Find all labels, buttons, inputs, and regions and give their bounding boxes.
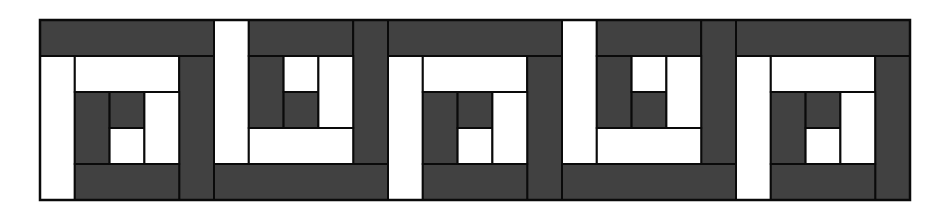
quilt-block-3 bbox=[388, 20, 562, 200]
inner-bottom-log bbox=[597, 128, 701, 164]
inner-left-log bbox=[249, 56, 284, 128]
inner-bottom-log bbox=[249, 128, 353, 164]
center-light-square bbox=[806, 128, 841, 164]
inner-right-log bbox=[666, 56, 701, 128]
top-log bbox=[736, 20, 910, 56]
center-dark-square bbox=[110, 92, 145, 128]
bottom-log bbox=[423, 164, 527, 200]
inner-right-log bbox=[318, 56, 353, 128]
right-log bbox=[179, 56, 214, 200]
right-log bbox=[701, 20, 736, 164]
left-log bbox=[388, 56, 423, 200]
inner-left-log bbox=[771, 92, 806, 164]
bottom-log bbox=[75, 164, 179, 200]
log-cabin-quilt-strip bbox=[0, 0, 942, 209]
bottom-log bbox=[214, 164, 388, 200]
inner-top-log bbox=[423, 56, 527, 92]
left-log bbox=[40, 56, 75, 200]
right-log bbox=[527, 56, 562, 200]
inner-right-log bbox=[840, 92, 875, 164]
left-log bbox=[214, 20, 249, 164]
top-log bbox=[40, 20, 214, 56]
right-log bbox=[353, 20, 388, 164]
center-light-square bbox=[458, 128, 493, 164]
center-light-square bbox=[110, 128, 145, 164]
quilt-block-5 bbox=[736, 20, 910, 200]
center-dark-square bbox=[806, 92, 841, 128]
quilt-block-4 bbox=[562, 20, 736, 200]
left-log bbox=[562, 20, 597, 164]
center-light-square bbox=[632, 56, 667, 92]
center-dark-square bbox=[632, 92, 667, 128]
center-light-square bbox=[284, 56, 319, 92]
right-log bbox=[875, 56, 910, 200]
left-log bbox=[736, 56, 771, 200]
bottom-log bbox=[562, 164, 736, 200]
inner-left-log bbox=[597, 56, 632, 128]
inner-top-log bbox=[75, 56, 179, 92]
quilt-block-2 bbox=[214, 20, 388, 200]
inner-left-log bbox=[75, 92, 110, 164]
top-log bbox=[249, 20, 353, 56]
bottom-log bbox=[771, 164, 875, 200]
center-dark-square bbox=[284, 92, 319, 128]
quilt-block-1 bbox=[40, 20, 214, 200]
top-log bbox=[388, 20, 562, 56]
inner-top-log bbox=[771, 56, 875, 92]
center-dark-square bbox=[458, 92, 493, 128]
inner-right-log bbox=[144, 92, 179, 164]
inner-left-log bbox=[423, 92, 458, 164]
inner-right-log bbox=[492, 92, 527, 164]
top-log bbox=[597, 20, 701, 56]
